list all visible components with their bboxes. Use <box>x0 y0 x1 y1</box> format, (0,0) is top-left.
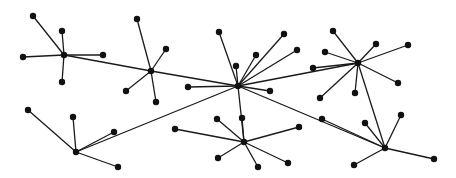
graph-edge-h2-b1 <box>137 19 151 71</box>
leaf-node-d7 <box>352 90 358 96</box>
leaf-node-c6 <box>267 88 273 94</box>
graph-edge-h7-g3 <box>385 115 401 148</box>
graph-edge-h7-g4 <box>354 148 385 165</box>
graph-edge-hc-h5 <box>76 86 238 152</box>
graph-edge-h5-e3 <box>76 132 114 152</box>
network-graph <box>0 0 456 178</box>
graph-edge-hc-h7 <box>238 86 385 148</box>
leaf-node-b2 <box>163 46 169 52</box>
leaf-node-f3 <box>239 115 245 121</box>
graph-edge-h6-f4 <box>244 127 299 142</box>
leaf-node-c1 <box>216 29 222 35</box>
graph-edge-h6-f2 <box>217 119 244 142</box>
graph-edge-h7-g1 <box>322 119 385 148</box>
leaf-node-e3 <box>111 129 117 135</box>
graph-edge-hc-c7 <box>188 86 238 87</box>
leaf-node-d8 <box>317 95 323 101</box>
hub-node-hc <box>235 83 241 89</box>
graph-nodes <box>20 13 437 170</box>
graph-edge-h2-b4 <box>151 71 156 102</box>
leaf-node-d4 <box>322 49 328 55</box>
leaf-node-a3 <box>20 54 26 60</box>
leaf-node-c7 <box>185 84 191 90</box>
hub-node-h1 <box>61 52 67 58</box>
leaf-node-b3 <box>123 88 129 94</box>
leaf-node-f5 <box>215 155 221 161</box>
graph-edge-h5-e2 <box>73 117 76 152</box>
leaf-node-f2 <box>214 116 220 122</box>
leaf-node-a4 <box>100 52 106 58</box>
leaf-node-d6 <box>395 80 401 86</box>
graph-edge-hc-c1 <box>219 32 238 86</box>
leaf-node-e4 <box>115 164 121 170</box>
graph-edge-h4-d7 <box>355 63 358 93</box>
leaf-node-f6 <box>255 164 261 170</box>
graph-edge-h2-b3 <box>126 71 151 91</box>
leaf-node-g3 <box>398 112 404 118</box>
leaf-node-d3 <box>405 42 411 48</box>
graph-edge-h1-a5 <box>62 55 64 82</box>
graph-edge-h1-a3 <box>23 55 64 57</box>
graph-edge-h2-b2 <box>151 49 166 71</box>
graph-edge-h2-hc <box>151 71 238 86</box>
leaf-node-a5 <box>59 79 65 85</box>
leaf-node-d1 <box>330 28 336 34</box>
leaf-node-g5 <box>431 156 437 162</box>
leaf-node-f1 <box>172 126 178 132</box>
leaf-node-f4 <box>296 124 302 130</box>
leaf-node-g1 <box>319 116 325 122</box>
graph-edge-h4-d3 <box>358 45 408 63</box>
graph-edge-h4-h7 <box>358 63 385 148</box>
leaf-node-c3 <box>253 52 259 58</box>
leaf-node-c5 <box>294 47 300 53</box>
leaf-node-b1 <box>134 16 140 22</box>
graph-edge-h6-f5 <box>218 142 244 158</box>
leaf-node-e1 <box>25 107 31 113</box>
hub-node-h7 <box>382 145 388 151</box>
graph-edge-h6-f1 <box>175 129 244 142</box>
graph-edge-h5-e1 <box>28 110 76 152</box>
leaf-node-b4 <box>153 99 159 105</box>
leaf-node-g2 <box>362 120 368 126</box>
leaf-node-a2 <box>59 28 65 34</box>
hub-node-h6 <box>241 139 247 145</box>
graph-edge-h1-a2 <box>62 31 64 55</box>
leaf-node-e2 <box>70 114 76 120</box>
leaf-node-g4 <box>351 162 357 168</box>
hub-node-h4 <box>355 60 361 66</box>
graph-edge-h7-g5 <box>385 148 434 159</box>
graph-edges <box>23 16 434 167</box>
graph-edge-h1-h2 <box>64 55 151 71</box>
leaf-node-a1 <box>30 13 36 19</box>
leaf-node-d5 <box>310 65 316 71</box>
graph-edge-h1-a1 <box>33 16 64 55</box>
graph-edge-h5-e4 <box>76 152 118 167</box>
leaf-node-c4 <box>233 63 239 69</box>
leaf-node-c2 <box>281 31 287 37</box>
graph-edge-hc-c3 <box>238 55 256 86</box>
leaf-node-d2 <box>373 41 379 47</box>
leaf-node-f7 <box>285 160 291 166</box>
hub-node-h5 <box>73 149 79 155</box>
hub-node-h2 <box>148 68 154 74</box>
